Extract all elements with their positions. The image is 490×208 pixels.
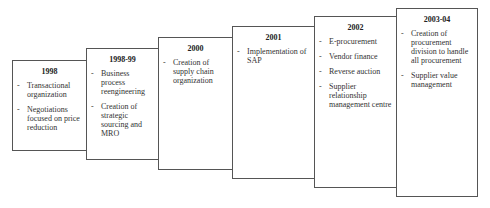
dash-bullet-icon: -	[237, 47, 240, 56]
stage-2001: 2001 -Implementation of SAP	[232, 26, 315, 179]
stage-item: -E-procurement	[319, 37, 392, 46]
stage-1998: 1998 -Transactional organization -Negoti…	[12, 60, 87, 151]
stage-item: -Supplier relationship management centre	[319, 82, 392, 109]
stage-1998-99: 1998-99 -Business process reengineering …	[86, 48, 159, 160]
stage-item: -Negotiations focused on price reduction	[17, 105, 82, 132]
dash-bullet-icon: -	[319, 52, 322, 61]
stage-item: -Creation of strategic sourcing and MRO	[91, 102, 154, 138]
stage-year: 1998-99	[91, 55, 154, 64]
dash-bullet-icon: -	[401, 71, 404, 80]
stage-item: -Supplier value management	[401, 71, 473, 89]
dash-bullet-icon: -	[163, 58, 166, 67]
stage-year: 2003-04	[401, 15, 473, 24]
stage-item: -Creation of procurement division to han…	[401, 29, 473, 65]
dash-bullet-icon: -	[17, 105, 20, 114]
stage-year: 2000	[163, 44, 228, 53]
stage-item: -Reverse auction	[319, 67, 392, 76]
stage-item: -Creation of supply chain organization	[163, 58, 228, 85]
stage-item: -Business process reengineering	[91, 69, 154, 96]
stage-2002: 2002 -E-procurement -Vendor finance -Rev…	[314, 16, 397, 188]
stage-year: 1998	[17, 67, 82, 76]
stage-2000: 2000 -Creation of supply chain organizat…	[158, 37, 233, 170]
stage-year: 2002	[319, 23, 392, 32]
dash-bullet-icon: -	[319, 67, 322, 76]
dash-bullet-icon: -	[91, 102, 94, 111]
dash-bullet-icon: -	[319, 37, 322, 46]
stage-year: 2001	[237, 33, 310, 42]
dash-bullet-icon: -	[91, 69, 94, 78]
dash-bullet-icon: -	[319, 82, 322, 91]
stage-item: -Vendor finance	[319, 52, 392, 61]
stage-item: -Transactional organization	[17, 81, 82, 99]
stage-2003-04: 2003-04 -Creation of procurement divisio…	[396, 8, 478, 197]
dash-bullet-icon: -	[401, 29, 404, 38]
stage-item: -Implementation of SAP	[237, 47, 310, 65]
dash-bullet-icon: -	[17, 81, 20, 90]
